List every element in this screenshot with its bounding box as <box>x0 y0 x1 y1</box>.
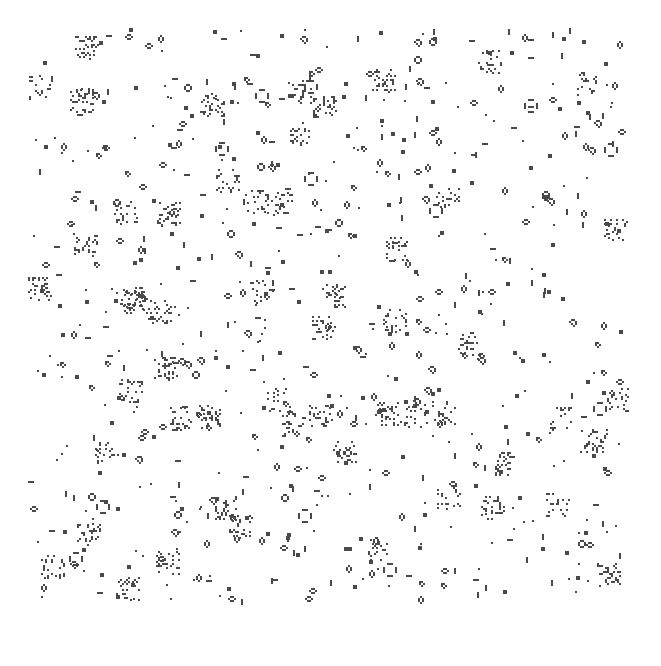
live-cell <box>103 454 105 456</box>
live-cell <box>201 427 203 429</box>
live-cell <box>229 531 231 533</box>
live-cell <box>316 180 318 182</box>
live-cell <box>183 121 185 123</box>
live-cell <box>286 415 288 417</box>
live-cell <box>76 101 78 103</box>
live-cell <box>129 401 131 403</box>
live-cell <box>259 101 261 103</box>
live-cell <box>621 398 623 400</box>
live-cell <box>101 460 103 462</box>
live-cell <box>567 553 569 555</box>
live-cell <box>180 407 182 409</box>
live-cell <box>345 447 347 449</box>
live-cell <box>524 219 526 221</box>
live-cell <box>160 35 162 37</box>
live-cell <box>118 238 120 240</box>
live-cell <box>499 506 501 508</box>
live-cell <box>261 169 263 171</box>
live-cell <box>133 309 135 311</box>
live-cell <box>223 510 225 512</box>
game-board[interactable] <box>0 0 661 666</box>
live-cell <box>500 91 502 93</box>
live-cell <box>272 280 274 282</box>
live-cell <box>520 496 522 498</box>
live-cell <box>348 571 350 573</box>
live-cell <box>414 272 416 274</box>
live-cell <box>77 36 79 38</box>
live-cell <box>160 375 162 377</box>
live-cell <box>268 273 270 275</box>
live-cell <box>265 140 267 142</box>
live-cell <box>606 229 608 231</box>
live-cell <box>387 375 389 377</box>
live-cell <box>615 579 617 581</box>
live-cell <box>573 325 575 327</box>
live-cell <box>223 121 225 123</box>
live-cell <box>453 481 455 483</box>
live-cell <box>359 537 361 539</box>
live-cell <box>221 103 223 105</box>
live-cell <box>472 348 474 350</box>
live-cell <box>135 263 137 265</box>
live-cell <box>219 595 221 597</box>
live-cell <box>197 359 199 361</box>
live-cell <box>290 140 292 142</box>
live-cell <box>62 366 64 368</box>
live-cell <box>158 37 160 39</box>
live-cell <box>560 415 562 417</box>
live-cell <box>267 392 269 394</box>
live-cell <box>372 328 374 330</box>
live-cell <box>209 107 211 109</box>
live-cell <box>144 252 146 254</box>
live-cell <box>87 46 89 48</box>
live-cell <box>264 319 266 321</box>
live-cell <box>99 448 101 450</box>
live-cell <box>495 259 497 261</box>
live-cell <box>116 507 118 509</box>
live-cell <box>619 583 621 585</box>
live-cell <box>91 385 93 387</box>
live-cell <box>355 187 357 189</box>
live-cell <box>426 196 428 198</box>
live-cell <box>349 493 351 495</box>
live-cell <box>353 189 355 191</box>
live-cell <box>232 102 234 104</box>
live-cell <box>92 93 94 95</box>
live-cell <box>117 199 119 201</box>
live-cell <box>188 84 190 86</box>
live-cell <box>30 481 32 483</box>
live-cell <box>592 429 594 431</box>
live-cell <box>471 154 473 156</box>
live-cell <box>180 362 182 364</box>
live-cell <box>265 194 267 196</box>
live-cell <box>262 359 264 361</box>
live-cell <box>547 200 549 202</box>
live-cell <box>327 394 329 396</box>
live-cell <box>238 181 240 183</box>
live-cell <box>126 579 128 581</box>
live-cell <box>570 421 572 423</box>
live-cell <box>51 559 53 561</box>
live-cell <box>39 169 41 171</box>
live-cell <box>422 198 424 200</box>
live-cell <box>201 407 203 409</box>
live-cell <box>625 400 627 402</box>
live-cell <box>401 219 403 221</box>
live-cell <box>177 210 179 212</box>
live-cell <box>353 585 355 587</box>
live-cell <box>531 284 533 286</box>
live-cell <box>486 71 488 73</box>
live-cell <box>92 518 94 520</box>
live-cell <box>330 404 332 406</box>
live-cell <box>47 88 49 90</box>
live-cell <box>228 598 230 600</box>
live-cell <box>74 101 76 103</box>
live-cell <box>605 567 607 569</box>
live-cell <box>597 504 599 506</box>
live-cell <box>186 411 188 413</box>
live-cell <box>283 98 285 100</box>
live-cell <box>455 491 457 493</box>
live-cell <box>564 413 566 415</box>
live-cell <box>371 570 373 572</box>
live-cell <box>174 357 176 359</box>
